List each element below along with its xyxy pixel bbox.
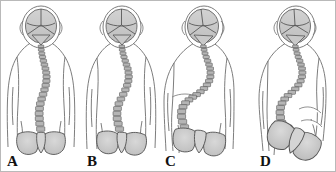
panel-b xyxy=(81,1,165,172)
panel-label-d: D xyxy=(260,154,271,169)
panel-c-illustration xyxy=(160,1,244,172)
panel-b-illustration xyxy=(81,1,165,172)
panel-a-illustration xyxy=(1,1,85,172)
skull-a xyxy=(20,6,62,48)
panel-c xyxy=(160,1,244,172)
scoliosis-progression-figure: A xyxy=(0,0,336,172)
panel-label-a: A xyxy=(7,154,18,169)
skull-d xyxy=(274,6,316,48)
panel-d-illustration xyxy=(253,1,336,172)
pelvis-a xyxy=(17,132,66,155)
panel-a xyxy=(1,1,85,172)
sacrum-a xyxy=(37,132,46,153)
skull-c xyxy=(182,6,224,48)
pelvis-c xyxy=(172,127,227,157)
panel-label-c: C xyxy=(165,154,176,169)
pelvis-b xyxy=(96,130,147,155)
panel-d xyxy=(253,1,336,172)
skull-b xyxy=(100,6,143,48)
panel-label-b: B xyxy=(87,154,97,169)
